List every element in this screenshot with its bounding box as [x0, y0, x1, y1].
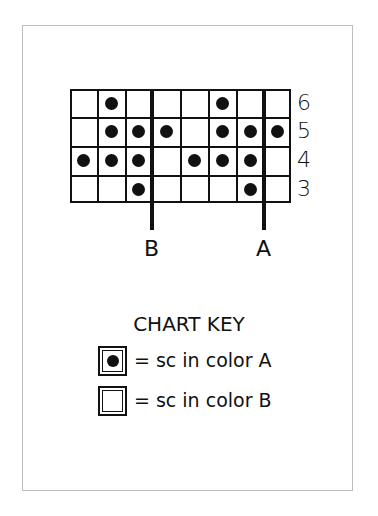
grid-col-divider	[208, 91, 210, 201]
stitch-dot-icon	[188, 154, 201, 167]
stitch-dot-icon	[105, 97, 118, 110]
guide-label-a: A	[256, 238, 271, 260]
key-text-color-a: = sc in color A	[134, 349, 272, 371]
row-label-5: 5	[297, 120, 311, 142]
stitch-dot-icon	[216, 154, 229, 167]
stitch-dot-icon	[216, 125, 229, 138]
grid-col-divider	[97, 91, 99, 201]
row-label-6: 6	[297, 92, 311, 114]
grid-col-divider	[236, 91, 238, 201]
key-symbol-color-a	[98, 346, 127, 376]
stitch-dot-icon	[105, 125, 118, 138]
stitch-dot-icon	[132, 125, 145, 138]
stitch-dot-icon	[132, 183, 145, 196]
guide-label-b: B	[144, 238, 159, 260]
key-text-color-b: = sc in color B	[134, 389, 272, 411]
grid-col-divider	[180, 91, 182, 201]
stitch-dot-icon	[160, 125, 173, 138]
stitch-dot-icon	[244, 125, 257, 138]
stitch-dot-icon	[132, 154, 145, 167]
grid-col-divider	[125, 91, 127, 201]
guide-line-a	[262, 89, 266, 230]
stitch-dot-icon	[271, 125, 284, 138]
row-label-3: 3	[297, 178, 311, 200]
filled-dot-icon	[107, 355, 119, 367]
stitch-dot-icon	[244, 154, 257, 167]
chart-key-title: CHART KEY	[0, 313, 378, 335]
row-label-4: 4	[297, 149, 311, 171]
stitch-dot-icon	[105, 154, 118, 167]
stitch-dot-icon	[216, 97, 229, 110]
guide-line-b	[150, 89, 154, 230]
stitch-dot-icon	[244, 183, 257, 196]
key-symbol-color-b	[98, 386, 127, 416]
stitch-dot-icon	[77, 154, 90, 167]
stitch-grid	[70, 89, 291, 203]
